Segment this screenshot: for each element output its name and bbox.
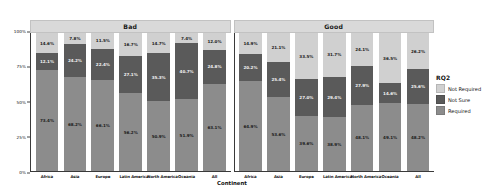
bar-segment-not-sure[interactable]: 40.7% xyxy=(175,43,198,99)
bar-segment-required[interactable]: 63.1% xyxy=(203,84,226,171)
bar-segment-required[interactable]: 50.9% xyxy=(147,101,170,171)
bar-segment-not-required[interactable]: 24.1% xyxy=(351,33,374,66)
segment-value-label: 27.9% xyxy=(355,83,369,88)
x-axis-tick-label: Oceania xyxy=(379,174,402,179)
legend-title: RQ2 xyxy=(436,74,492,81)
segment-value-label: 22.4% xyxy=(96,62,110,67)
bar-segment-not-sure[interactable]: 12.1% xyxy=(36,53,59,70)
bar-segment-not-sure[interactable]: 25.6% xyxy=(407,69,430,104)
x-axis-tick-label: Latin America xyxy=(119,174,142,179)
legend-label: Not Required xyxy=(448,86,481,92)
bar-segment-required[interactable]: 39.6% xyxy=(295,116,318,171)
bar-oceania[interactable]: 7.4%40.7%51.9% xyxy=(175,33,198,171)
segment-value-label: 14.6% xyxy=(40,41,54,46)
bar-asia[interactable]: 7.8%24.2%68.2% xyxy=(64,33,87,171)
bar-segment-not-sure[interactable]: 29.4% xyxy=(323,77,346,118)
bar-segment-not-sure[interactable]: 25.4% xyxy=(267,62,290,97)
x-axis-tick-label: Africa xyxy=(36,174,59,179)
bar-segment-not-required[interactable]: 14.7% xyxy=(147,33,170,53)
x-axis-tick-label: North America xyxy=(351,174,374,179)
plot-area: 14.9%20.2%64.9%21.1%25.4%53.6%33.5%27.0%… xyxy=(234,33,435,172)
segment-value-label: 25.6% xyxy=(411,84,425,89)
legend-swatch xyxy=(436,84,445,93)
bar-segment-not-sure[interactable]: 20.2% xyxy=(239,54,262,82)
segment-value-label: 27.1% xyxy=(124,72,138,77)
bar-segment-not-required[interactable]: 12.0% xyxy=(203,33,226,50)
bar-segment-required[interactable]: 49.1% xyxy=(379,103,402,171)
bar-segment-required[interactable]: 68.2% xyxy=(64,77,87,171)
bar-segment-required[interactable]: 66.1% xyxy=(91,80,114,171)
bar-segment-not-sure[interactable]: 27.9% xyxy=(351,66,374,104)
segment-value-label: 25.4% xyxy=(271,77,285,82)
bar-segment-not-required[interactable]: 7.4% xyxy=(175,33,198,43)
bar-segment-required[interactable]: 73.4% xyxy=(36,70,59,171)
bar-north-america[interactable]: 14.7%35.3%50.9% xyxy=(147,33,170,171)
bar-segment-not-sure[interactable]: 27.0% xyxy=(295,79,318,116)
bar-segment-not-required[interactable]: 33.5% xyxy=(295,33,318,79)
segment-value-label: 49.1% xyxy=(383,135,397,140)
segment-value-label: 33.5% xyxy=(299,54,313,59)
y-axis-tick: 25% xyxy=(16,134,26,139)
x-axis-tick-label: Africa xyxy=(239,174,262,179)
bar-segment-not-sure[interactable]: 24.8% xyxy=(203,50,226,84)
panel-bad: Bad14.6%12.1%73.4%7.8%24.2%68.2%11.5%22.… xyxy=(30,20,231,172)
legend-swatch xyxy=(436,106,445,115)
x-axis-tick-label: All xyxy=(203,174,226,179)
x-axis-tick-label: Oceania xyxy=(175,174,198,179)
bar-segment-not-required[interactable]: 7.8% xyxy=(64,33,87,44)
bar-segment-required[interactable]: 56.2% xyxy=(119,93,142,171)
bar-segment-not-required[interactable]: 26.2% xyxy=(407,33,430,69)
bar-segment-not-required[interactable]: 11.5% xyxy=(91,33,114,49)
legend-item[interactable]: Not Sure xyxy=(436,95,492,104)
x-axis-labels: AfricaAsiaEuropeLatin AmericaNorth Ameri… xyxy=(33,171,229,179)
segment-value-label: 14.6% xyxy=(383,91,397,96)
y-axis: 0%25%50%75%100% xyxy=(0,20,30,172)
bar-segment-not-sure[interactable]: 27.1% xyxy=(119,56,142,93)
bar-segment-not-sure[interactable]: 22.4% xyxy=(91,49,114,80)
bar-segment-required[interactable]: 48.2% xyxy=(407,104,430,171)
segment-value-label: 39.6% xyxy=(299,141,313,146)
y-axis-tick: 50% xyxy=(16,99,26,104)
segment-value-label: 68.2% xyxy=(68,122,82,127)
panel-container: Bad14.6%12.1%73.4%7.8%24.2%68.2%11.5%22.… xyxy=(30,20,434,172)
segment-value-label: 36.5% xyxy=(383,56,397,61)
bar-segment-required[interactable]: 64.9% xyxy=(239,81,262,171)
bar-segment-not-required[interactable]: 36.5% xyxy=(379,33,402,83)
bar-segment-not-required[interactable]: 31.7% xyxy=(323,33,346,77)
bar-segment-not-required[interactable]: 14.9% xyxy=(239,33,262,54)
legend-item[interactable]: Required xyxy=(436,106,492,115)
bar-europe[interactable]: 33.5%27.0%39.6% xyxy=(295,33,318,171)
bar-asia[interactable]: 21.1%25.4%53.6% xyxy=(267,33,290,171)
segment-value-label: 7.4% xyxy=(181,36,192,41)
bar-africa[interactable]: 14.9%20.2%64.9% xyxy=(239,33,262,171)
bar-segment-required[interactable]: 53.6% xyxy=(267,97,290,171)
legend-item[interactable]: Not Required xyxy=(436,84,492,93)
segment-value-label: 63.1% xyxy=(208,125,222,130)
segment-value-label: 29.4% xyxy=(327,95,341,100)
stacked-bar-chart: 0%25%50%75%100% Bad14.6%12.1%73.4%7.8%24… xyxy=(0,0,494,195)
segment-value-label: 64.9% xyxy=(243,124,257,129)
bar-segment-required[interactable]: 38.9% xyxy=(323,117,346,171)
bar-segment-not-sure[interactable]: 35.3% xyxy=(147,53,170,101)
x-axis-tick-label: Europe xyxy=(295,174,318,179)
bar-all[interactable]: 12.0%24.8%63.1% xyxy=(203,33,226,171)
bar-segment-required[interactable]: 48.1% xyxy=(351,105,374,171)
panel-title: Bad xyxy=(30,20,231,33)
x-axis-tick-label: North America xyxy=(147,174,170,179)
bar-all[interactable]: 26.2%25.6%48.2% xyxy=(407,33,430,171)
bar-segment-required[interactable]: 51.9% xyxy=(175,99,198,171)
bar-segment-not-sure[interactable]: 24.2% xyxy=(64,44,87,77)
bar-segment-not-required[interactable]: 14.6% xyxy=(36,33,59,53)
bar-north-america[interactable]: 24.1%27.9%48.1% xyxy=(351,33,374,171)
bar-africa[interactable]: 14.6%12.1%73.4% xyxy=(36,33,59,171)
bar-segment-not-required[interactable]: 16.7% xyxy=(119,33,142,56)
bar-segment-not-sure[interactable]: 14.6% xyxy=(379,83,402,103)
plot-area: 14.6%12.1%73.4%7.8%24.2%68.2%11.5%22.4%6… xyxy=(30,33,231,172)
bar-oceania[interactable]: 36.5%14.6%49.1% xyxy=(379,33,402,171)
bar-latin-america[interactable]: 16.7%27.1%56.2% xyxy=(119,33,142,171)
bar-latin-america[interactable]: 31.7%29.4%38.9% xyxy=(323,33,346,171)
bar-europe[interactable]: 11.5%22.4%66.1% xyxy=(91,33,114,171)
segment-value-label: 7.8% xyxy=(69,36,80,41)
segment-value-label: 38.9% xyxy=(327,142,341,147)
bar-segment-not-required[interactable]: 21.1% xyxy=(267,33,290,62)
